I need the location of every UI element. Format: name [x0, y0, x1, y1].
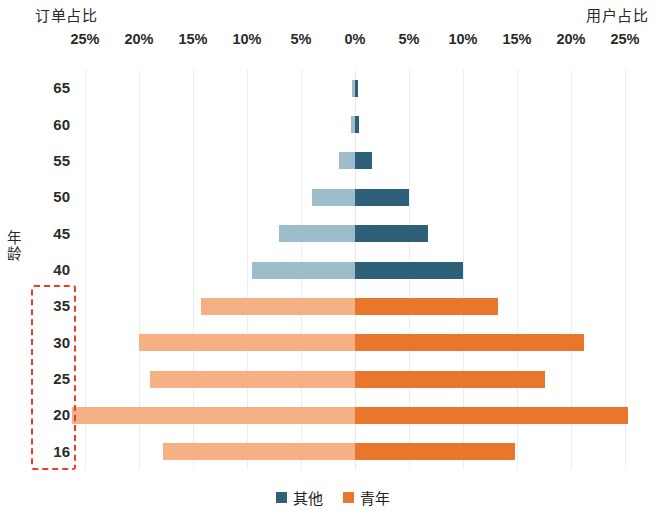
legend: 其他青年	[0, 487, 666, 508]
x-axis-tick-labels: 25%20%15%10%5%0%5%10%15%20%25%	[0, 31, 666, 53]
bar-right-users	[355, 443, 515, 460]
bar-right-users	[355, 407, 628, 424]
bar-right-users	[355, 152, 372, 169]
x-tick-label: 10%	[232, 31, 261, 47]
y-tick-label-age-20: 20	[36, 406, 70, 423]
y-tick-label-age-65: 65	[36, 79, 70, 96]
pyramid-row	[0, 116, 666, 133]
pyramid-row	[0, 225, 666, 242]
pyramid-row	[0, 80, 666, 97]
x-tick-label: 20%	[556, 31, 585, 47]
left-axis-caption: 订单占比	[35, 4, 97, 25]
x-tick-label: 15%	[502, 31, 531, 47]
pyramid-row	[0, 334, 666, 351]
y-tick-label-age-35: 35	[36, 297, 70, 314]
legend-label: 其他	[293, 487, 323, 508]
y-tick-label-age-45: 45	[36, 225, 70, 242]
x-tick-label: 20%	[124, 31, 153, 47]
y-tick-label-age-25: 25	[36, 370, 70, 387]
x-tick-label: 25%	[70, 31, 99, 47]
y-tick-label-age-55: 55	[36, 152, 70, 169]
y-tick-label-age-30: 30	[36, 334, 70, 351]
bar-right-users	[355, 225, 428, 242]
pyramid-row	[0, 189, 666, 206]
bar-left-orders	[139, 334, 355, 351]
y-tick-label-age-40: 40	[36, 261, 70, 278]
x-tick-label: 0%	[345, 31, 366, 47]
x-tick-label: 10%	[448, 31, 477, 47]
legend-swatch-icon	[343, 492, 354, 503]
pyramid-row	[0, 407, 666, 424]
pyramid-row	[0, 152, 666, 169]
legend-label: 青年	[360, 487, 390, 508]
bar-left-orders	[150, 371, 355, 388]
bar-left-orders	[279, 225, 355, 242]
pyramid-row	[0, 262, 666, 279]
pyramid-row	[0, 443, 666, 460]
plot-area	[0, 70, 666, 470]
legend-swatch-icon	[276, 492, 287, 503]
x-tick-label: 15%	[178, 31, 207, 47]
right-axis-caption: 用户占比	[586, 4, 648, 25]
bar-left-orders	[163, 443, 355, 460]
y-tick-label-age-60: 60	[36, 116, 70, 133]
population-pyramid-chart: 订单占比 用户占比 25%20%15%10%5%0%5%10%15%20%25%…	[0, 0, 666, 518]
x-tick-label: 5%	[399, 31, 420, 47]
bar-right-users	[355, 298, 498, 315]
y-tick-label-age-16: 16	[36, 443, 70, 460]
y-tick-label-age-50: 50	[36, 188, 70, 205]
x-tick-label: 5%	[291, 31, 312, 47]
bar-right-users	[355, 262, 463, 279]
bar-left-orders	[339, 152, 355, 169]
pyramid-row	[0, 298, 666, 315]
bar-left-orders	[252, 262, 355, 279]
bar-right-users	[355, 371, 545, 388]
bar-left-orders	[312, 189, 355, 206]
bar-right-users	[355, 334, 584, 351]
legend-item[interactable]: 其他	[276, 487, 323, 508]
bar-left-orders	[201, 298, 355, 315]
pyramid-row	[0, 371, 666, 388]
bar-right-users	[355, 189, 409, 206]
bar-left-orders	[72, 407, 355, 424]
legend-item[interactable]: 青年	[343, 487, 390, 508]
x-tick-label: 25%	[610, 31, 639, 47]
bar-right-users	[355, 116, 359, 133]
bar-right-users	[355, 80, 358, 97]
